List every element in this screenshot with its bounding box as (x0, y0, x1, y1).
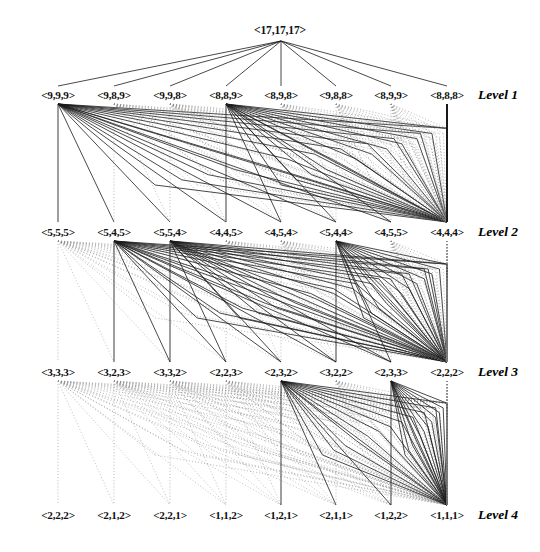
node-l4-1[interactable]: <2,2,2> (41, 509, 75, 521)
node-l2-4[interactable]: <4,4,5> (209, 226, 243, 238)
node-l1-4[interactable]: <8,8,9> (209, 89, 243, 101)
node-l4-6[interactable]: <2,1,1> (319, 509, 353, 521)
edge-network (0, 0, 540, 552)
node-l4-3[interactable]: <2,2,1> (153, 509, 187, 521)
node-l3-1[interactable]: <3,3,3> (41, 366, 75, 378)
node-l2-7[interactable]: <4,5,5> (374, 226, 408, 238)
node-l4-5[interactable]: <1,2,1> (264, 509, 298, 521)
node-l1-3[interactable]: <9,9,8> (153, 89, 187, 101)
node-l2-3[interactable]: <5,5,4> (153, 226, 187, 238)
node-l4-2[interactable]: <2,1,2> (97, 509, 131, 521)
node-l2-1[interactable]: <5,5,5> (41, 226, 75, 238)
node-l1-8[interactable]: <8,8,8> (430, 89, 464, 101)
figure-canvas: <17,17,17> <9,9,9><9,8,9><9,9,8><8,8,9><… (0, 0, 540, 552)
node-l3-6[interactable]: <3,2,2> (319, 366, 353, 378)
level-label-3: Level 3 (478, 364, 518, 380)
node-l2-5[interactable]: <4,5,4> (264, 226, 298, 238)
node-l3-5[interactable]: <2,3,2> (264, 366, 298, 378)
node-l1-2[interactable]: <9,8,9> (97, 89, 131, 101)
node-l4-7[interactable]: <1,2,2> (374, 509, 408, 521)
node-l1-6[interactable]: <9,8,8> (319, 89, 353, 101)
node-l1-5[interactable]: <8,9,8> (264, 89, 298, 101)
node-l2-2[interactable]: <5,4,5> (97, 226, 131, 238)
node-l2-8[interactable]: <4,4,4> (430, 226, 464, 238)
node-l2-6[interactable]: <5,4,4> (319, 226, 353, 238)
node-l1-7[interactable]: <8,9,9> (374, 89, 408, 101)
node-root[interactable]: <17,17,17> (254, 24, 306, 37)
node-l3-3[interactable]: <3,3,2> (153, 366, 187, 378)
node-l3-2[interactable]: <3,2,3> (97, 366, 131, 378)
level-label-2: Level 2 (478, 224, 518, 240)
node-l3-4[interactable]: <2,2,3> (209, 366, 243, 378)
node-l1-1[interactable]: <9,9,9> (41, 89, 75, 101)
node-l3-8[interactable]: <2,2,2> (430, 366, 464, 378)
node-l3-7[interactable]: <2,3,3> (374, 366, 408, 378)
node-l4-4[interactable]: <1,1,2> (209, 509, 243, 521)
node-l4-8[interactable]: <1,1,1> (430, 509, 464, 521)
level-label-4: Level 4 (478, 507, 518, 523)
level-label-1: Level 1 (478, 87, 518, 103)
